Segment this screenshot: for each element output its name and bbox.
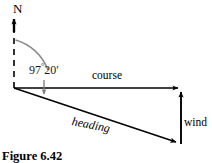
bearing-minutes-value: 20′ xyxy=(44,63,59,77)
figure-caption: Figure 6.42 xyxy=(2,150,62,163)
navigation-vector-figure: N 97°20′ course heading wind Figure 6.42 xyxy=(0,0,212,163)
north-label: N xyxy=(13,2,22,15)
bearing-degrees-value: 97 xyxy=(29,63,41,77)
vector-diagram-canvas xyxy=(0,0,212,163)
wind-label: wind xyxy=(184,117,207,129)
bearing-angle-label: 97°20′ xyxy=(29,63,59,76)
heading-vector-arrow xyxy=(14,88,176,142)
course-label: course xyxy=(92,70,122,82)
